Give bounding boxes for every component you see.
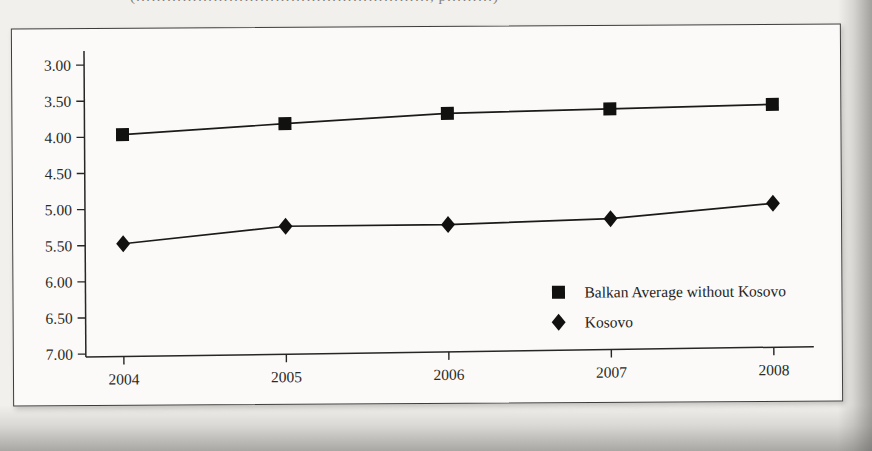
caption-fragment-text: (…………………………………………………, p………) [130, 0, 550, 8]
legend-marker-square [552, 286, 565, 299]
y-tick-label: 5.00 [45, 201, 72, 218]
line-chart: 3.003.504.004.505.005.506.006.507.00 200… [12, 24, 842, 405]
y-tick-label: 7.00 [46, 346, 73, 363]
y-tick-label: 6.00 [45, 273, 72, 290]
data-point-marker-diamond[interactable] [116, 235, 130, 252]
x-axis-ticks: 20042005200620072008 [108, 347, 789, 388]
x-tick-label: 2007 [596, 363, 627, 380]
y-tick-label: 4.50 [45, 165, 72, 182]
series-layer [115, 98, 780, 252]
data-point-marker-square[interactable] [441, 107, 454, 120]
legend-label: Kosovo [585, 313, 634, 330]
data-point-marker-diamond[interactable] [766, 195, 780, 212]
data-point-marker-square[interactable] [278, 117, 291, 130]
y-tick-label: 6.50 [45, 310, 72, 327]
x-tick-label: 2008 [758, 361, 789, 378]
x-tick-label: 2004 [108, 370, 139, 387]
legend-marker-diamond [552, 314, 566, 331]
x-tick-label: 2005 [271, 368, 302, 385]
chart-legend: Balkan Average without KosovoKosovo [551, 282, 786, 330]
data-point-marker-diamond[interactable] [441, 216, 455, 233]
data-point-marker-diamond[interactable] [604, 210, 618, 227]
y-tick-label: 3.50 [44, 93, 71, 110]
data-point-marker-square[interactable] [603, 102, 616, 115]
legend-label: Balkan Average without Kosovo [584, 282, 786, 300]
data-point-marker-square[interactable] [116, 128, 129, 141]
chart-frame: 3.003.504.004.505.005.506.006.507.00 200… [11, 23, 843, 406]
y-tick-label: 4.00 [44, 129, 71, 146]
data-point-marker-diamond[interactable] [279, 218, 293, 235]
y-axis-ticks: 3.003.504.004.505.005.506.006.507.00 [44, 57, 86, 363]
x-axis-line [86, 347, 814, 357]
x-tick-label: 2006 [433, 366, 464, 383]
data-point-marker-square[interactable] [766, 98, 779, 111]
y-tick-label: 3.00 [44, 57, 71, 74]
y-tick-label: 5.50 [45, 237, 72, 254]
y-axis-line [84, 51, 86, 357]
